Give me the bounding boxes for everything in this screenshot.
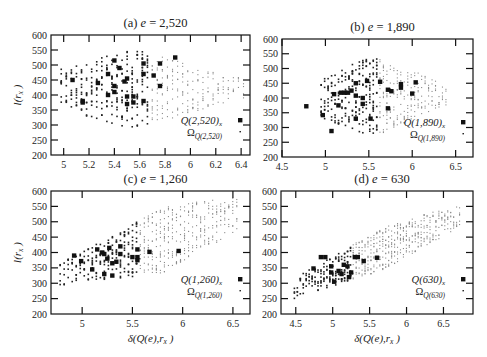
x-tick-label: 6: [404, 318, 409, 329]
y-tick-label: 600: [262, 186, 277, 197]
panel-title: (b) e = 1,890: [350, 20, 415, 34]
q-point: [105, 256, 109, 260]
q-point: [90, 267, 94, 271]
x-tick-label: 5.5: [363, 318, 376, 329]
x-tick-label: 5: [61, 159, 66, 170]
scatter-figure: (a) e = 2,520200250300350400450500550600…: [0, 0, 487, 357]
y-tick-label: 250: [262, 293, 277, 304]
legend-q-marker: [461, 120, 465, 124]
y-tick-label: 250: [263, 137, 278, 148]
x-tick-label: 5.5: [126, 318, 139, 329]
q-point: [135, 258, 139, 262]
x-tick-label: 6.2: [210, 159, 223, 170]
legend-omega-marker: [240, 131, 241, 132]
y-tick-label: 350: [263, 107, 278, 118]
q-point: [125, 76, 129, 80]
y-tick-label: 500: [32, 60, 47, 71]
y-tick-label: 300: [263, 122, 278, 133]
q-point: [389, 89, 393, 93]
panel-title: (d) e = 630: [354, 172, 409, 186]
q-point: [347, 275, 351, 279]
y-tick-label: 350: [32, 262, 47, 273]
q-point: [336, 103, 340, 107]
y-tick-label: 550: [32, 201, 47, 212]
legend-q-marker: [461, 277, 465, 281]
x-tick-label: 5.6: [133, 159, 146, 170]
q-point: [354, 93, 358, 97]
q-point: [141, 99, 145, 103]
x-axis-label: δ(Q(e),rx ): [128, 332, 174, 346]
panel-d: (d) e = 6302002503003504004505005506004.…: [262, 172, 473, 346]
y-tick-label: 200: [32, 150, 47, 161]
q-point: [130, 255, 134, 259]
q-point: [158, 84, 162, 88]
y-tick-label: 200: [262, 309, 277, 320]
q-point: [125, 102, 129, 106]
x-tick-label: 5.8: [159, 159, 172, 170]
x-tick-label: 5.2: [83, 159, 96, 170]
figure-container: (a) e = 2,520200250300350400450500550600…: [0, 0, 487, 357]
q-point: [151, 73, 155, 77]
panel-title: (a) e = 2,520: [124, 16, 188, 30]
x-tick-label: 4.5: [290, 318, 303, 329]
q-point: [414, 80, 418, 84]
y-tick-label: 400: [32, 90, 47, 101]
legend-q-marker: [238, 277, 242, 281]
q-point: [361, 102, 365, 106]
legend: Q(630)xΩQ(630): [412, 274, 466, 300]
q-point: [362, 259, 366, 263]
panel-a: (a) e = 2,520200250300350400450500550600…: [11, 16, 250, 170]
omega-scatter-series: [294, 206, 461, 299]
panel-b: (b) e = 1,890200250300350400450500550600…: [263, 20, 473, 172]
x-axis-label: δ(Q(e),rx ): [354, 332, 400, 346]
x-tick-label: 6: [410, 161, 415, 172]
q-point: [304, 104, 308, 108]
q-point: [410, 91, 414, 95]
q-point: [345, 264, 349, 268]
q-point: [131, 94, 135, 98]
q-point: [135, 247, 139, 251]
y-tick-label: 450: [262, 232, 277, 243]
q-point: [173, 55, 177, 59]
q-point: [319, 255, 323, 259]
legend: Q(2,520)xΩQ(2,520): [181, 115, 243, 141]
y-tick-label: 600: [32, 186, 47, 197]
q-point: [176, 249, 180, 253]
y-tick-label: 200: [32, 309, 47, 320]
q-point: [102, 252, 106, 256]
q-point: [96, 81, 100, 85]
y-tick-label: 250: [32, 135, 47, 146]
panel-c: (c) e = 1,260200250300350400450500550600…: [11, 172, 250, 346]
q-point: [141, 61, 145, 65]
x-tick-label: 6.5: [227, 318, 240, 329]
q-point: [399, 85, 403, 89]
q-point: [368, 116, 372, 120]
q-point: [70, 78, 74, 82]
q-point: [311, 266, 315, 270]
y-axis-label: l(rx ): [11, 242, 25, 263]
legend: Q(1,260)xΩQ(1,260): [181, 274, 243, 300]
q-point: [365, 79, 369, 83]
legend-omega-marker: [463, 290, 464, 291]
x-tick-label: 4.5: [276, 161, 289, 172]
q-point: [329, 270, 333, 274]
legend-omega-marker: [463, 133, 464, 134]
y-tick-label: 400: [262, 247, 277, 258]
y-tick-label: 450: [32, 75, 47, 86]
y-tick-label: 400: [263, 93, 278, 104]
q-point: [110, 273, 114, 277]
q-point: [80, 100, 84, 104]
q-point: [141, 72, 145, 76]
q-point: [378, 80, 382, 84]
x-tick-label: 5: [323, 161, 328, 172]
q-point: [349, 270, 353, 274]
y-axis-label: l(rx ): [11, 84, 25, 105]
legend-omega-label: ΩQ(1,890): [410, 129, 446, 143]
q-point: [158, 61, 162, 65]
q-point: [332, 92, 336, 96]
q-point: [118, 252, 122, 256]
q-point: [118, 244, 122, 248]
x-tick-label: 6: [180, 318, 185, 329]
q-point: [329, 129, 333, 133]
y-tick-label: 300: [262, 278, 277, 289]
